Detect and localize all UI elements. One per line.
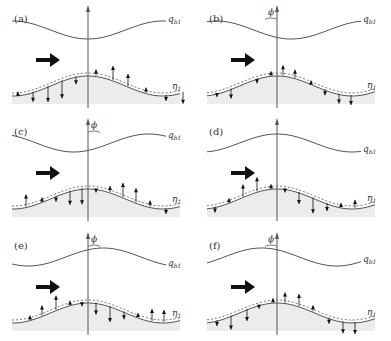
axis-arrow-icon bbox=[275, 232, 279, 239]
qb-curve bbox=[12, 248, 166, 266]
flux-arrowhead-icon bbox=[309, 81, 313, 85]
flux-arrowhead-icon bbox=[54, 296, 58, 300]
axis-arrow-icon bbox=[275, 5, 279, 12]
flux-arrowhead-icon bbox=[40, 197, 44, 201]
qb-curve bbox=[207, 134, 361, 152]
panel-e: (e)qb1η1ϕ bbox=[12, 232, 181, 335]
flux-arrowhead-icon bbox=[297, 294, 301, 298]
axis-arrow-icon bbox=[86, 118, 90, 125]
panel-label: (b) bbox=[209, 13, 223, 24]
flux-arrowhead-icon bbox=[68, 301, 72, 305]
wave-diagram-figure: (a)qb1η1(b)qb1η1ϕ(c)qb1η1ϕ(d)qb1η1(e)qb1… bbox=[0, 0, 391, 341]
flux-arrowhead-icon bbox=[121, 183, 125, 187]
flow-direction-arrow-icon bbox=[231, 53, 255, 67]
phi-label: ϕ bbox=[91, 120, 97, 130]
flux-arrowhead-icon bbox=[126, 74, 130, 78]
phi-bracket bbox=[265, 245, 277, 247]
flux-arrowhead-icon bbox=[271, 298, 275, 302]
sediment-region bbox=[207, 189, 375, 217]
flux-arrowhead-icon bbox=[353, 330, 357, 334]
panel-label: (a) bbox=[14, 13, 28, 24]
panel-f: (f)qb1η1ϕ bbox=[207, 232, 376, 335]
panel-label: (e) bbox=[14, 240, 28, 251]
flux-arrowhead-icon bbox=[281, 65, 285, 69]
flux-arrowhead-icon bbox=[353, 200, 357, 204]
flux-arrowhead-icon bbox=[40, 305, 44, 309]
panel-label: (d) bbox=[209, 126, 223, 137]
axis-arrow-icon bbox=[86, 232, 90, 239]
flux-arrowhead-icon bbox=[162, 310, 166, 314]
flux-arrowhead-icon bbox=[94, 70, 98, 74]
flux-arrowhead-icon bbox=[181, 100, 185, 104]
flux-arrowhead-icon bbox=[108, 186, 112, 190]
flux-arrowhead-icon bbox=[24, 195, 28, 199]
qb1-label: qb1 bbox=[168, 258, 181, 269]
flux-arrowhead-icon bbox=[241, 185, 245, 189]
flux-arrowhead-icon bbox=[150, 309, 154, 313]
flux-arrowhead-icon bbox=[148, 201, 152, 205]
phi-bracket bbox=[88, 131, 100, 133]
eta1-label: η1 bbox=[367, 193, 376, 204]
qb-curve bbox=[207, 248, 361, 266]
flux-arrowhead-icon bbox=[255, 177, 259, 181]
flow-direction-arrow-icon bbox=[36, 166, 60, 180]
phi-bracket bbox=[88, 245, 100, 247]
panel-label: (f) bbox=[209, 240, 221, 251]
flow-direction-arrow-icon bbox=[231, 280, 255, 294]
qb-curve bbox=[207, 21, 361, 39]
qb1-label: qb1 bbox=[363, 254, 376, 265]
eta1-label: η1 bbox=[172, 308, 181, 319]
phi-label: ϕ bbox=[268, 7, 274, 17]
axis-arrow-icon bbox=[275, 118, 279, 125]
flux-arrowhead-icon bbox=[283, 293, 287, 297]
eta1-label: η1 bbox=[367, 307, 376, 318]
flux-arrowhead-icon bbox=[144, 88, 148, 92]
qb1-label: qb1 bbox=[168, 14, 181, 25]
qb1-label: qb1 bbox=[363, 144, 376, 155]
flow-direction-arrow-icon bbox=[36, 53, 60, 67]
sediment-region bbox=[12, 76, 180, 104]
panel-label: (c) bbox=[14, 126, 28, 137]
qb-curve bbox=[12, 21, 166, 39]
qb1-label: qb1 bbox=[363, 14, 376, 25]
qb1-label: qb1 bbox=[168, 130, 181, 141]
flux-arrowhead-icon bbox=[16, 92, 20, 96]
qb-curve bbox=[12, 134, 166, 152]
panel-c: (c)qb1η1ϕ bbox=[12, 118, 181, 221]
flux-arrowhead-icon bbox=[311, 305, 315, 309]
sediment-region bbox=[207, 76, 375, 104]
panel-a: (a)qb1η1 bbox=[12, 5, 185, 108]
flux-arrowhead-icon bbox=[136, 313, 140, 317]
panel-d: (d)qb1η1 bbox=[207, 118, 376, 221]
axis-arrow-icon bbox=[86, 5, 90, 12]
sediment-region bbox=[12, 189, 180, 217]
eta1-label: η1 bbox=[172, 194, 181, 205]
panel-b: (b)qb1η1ϕ bbox=[207, 5, 376, 108]
flux-arrowhead-icon bbox=[293, 70, 297, 74]
flux-arrowhead-icon bbox=[134, 188, 138, 192]
eta1-label: η1 bbox=[172, 81, 181, 92]
flow-direction-arrow-icon bbox=[231, 166, 255, 180]
phi-bracket bbox=[265, 18, 277, 20]
eta1-label: η1 bbox=[367, 80, 376, 91]
flux-arrowhead-icon bbox=[227, 198, 231, 202]
phi-label: ϕ bbox=[268, 234, 274, 244]
flow-direction-arrow-icon bbox=[36, 280, 60, 294]
flux-arrowhead-icon bbox=[341, 329, 345, 333]
phi-label: ϕ bbox=[91, 234, 97, 244]
flux-arrowhead-icon bbox=[111, 66, 115, 70]
